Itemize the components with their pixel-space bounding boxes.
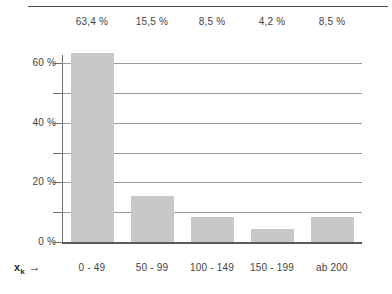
x-axis-title-subscript: k [20, 267, 24, 276]
data-label: 4,2 % [242, 16, 302, 27]
bar-chart: 63,4 %15,5 %8,5 %4,2 %8,5 % 60 %40 %20 %… [0, 0, 392, 294]
plot-area [62, 55, 362, 242]
y-axis-tick [53, 182, 62, 183]
y-axis-tick [53, 242, 62, 243]
bar[interactable] [311, 217, 354, 242]
y-axis-label: 40 % [4, 118, 56, 128]
x-axis-title: xk→ [14, 261, 41, 278]
y-axis-tick [53, 123, 62, 124]
y-axis-tick [53, 63, 62, 64]
arrow-right-icon: → [29, 260, 41, 274]
bar[interactable] [191, 217, 234, 242]
y-axis-label: 0 % [4, 237, 56, 247]
bar[interactable] [131, 196, 174, 242]
y-axis-tick [53, 93, 62, 94]
data-label: 8,5 % [182, 16, 242, 27]
y-axis-tick [53, 153, 62, 154]
data-label: 63,4 % [62, 16, 122, 27]
y-axis-label-group: 60 %40 %20 %0 % [0, 0, 56, 294]
x-axis-line [62, 242, 362, 244]
y-axis-tick [53, 212, 62, 213]
x-axis-category-label: ab 200 [294, 262, 370, 273]
data-label: 8,5 % [302, 16, 362, 27]
bar[interactable] [251, 229, 294, 242]
bar[interactable] [71, 53, 114, 242]
data-label: 15,5 % [122, 16, 182, 27]
y-axis-label: 60 % [4, 58, 56, 68]
y-axis-label: 20 % [4, 177, 56, 187]
